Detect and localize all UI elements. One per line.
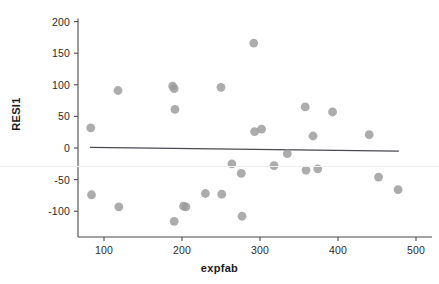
data-point bbox=[301, 103, 310, 112]
reference-line bbox=[90, 147, 399, 151]
data-point-group bbox=[86, 39, 402, 226]
x-axis-tick-label: 300 bbox=[251, 244, 269, 256]
data-point bbox=[182, 202, 191, 211]
data-point bbox=[328, 108, 337, 117]
y-axis-tick-label: 50 bbox=[30, 110, 70, 122]
data-point bbox=[87, 190, 96, 199]
y-axis-tick-label: 150 bbox=[30, 47, 70, 59]
data-point bbox=[170, 84, 179, 93]
data-point bbox=[170, 217, 179, 226]
data-point bbox=[237, 169, 246, 178]
x-axis-tick-label: 500 bbox=[407, 244, 425, 256]
y-axis-tick-label: 0 bbox=[30, 142, 70, 154]
x-axis-tick-label: 200 bbox=[173, 244, 191, 256]
data-point bbox=[217, 83, 226, 92]
data-point bbox=[114, 202, 123, 211]
x-axis-tick-label: 400 bbox=[329, 244, 347, 256]
x-axis-tick-label: 100 bbox=[95, 244, 113, 256]
data-point bbox=[302, 166, 311, 175]
y-axis-tick-label: 100 bbox=[30, 79, 70, 91]
data-point bbox=[114, 86, 123, 95]
data-point bbox=[374, 173, 383, 182]
y-axis-title-wrap: RESI1 bbox=[6, 0, 26, 284]
data-point bbox=[171, 105, 180, 114]
data-point bbox=[394, 185, 403, 194]
scan-artifact-line bbox=[0, 166, 439, 167]
data-point bbox=[86, 123, 95, 132]
data-point bbox=[365, 130, 374, 139]
data-point bbox=[309, 132, 318, 141]
data-point bbox=[217, 190, 226, 199]
y-axis-tick-label: -50 bbox=[30, 174, 70, 186]
data-point bbox=[257, 125, 266, 134]
data-point bbox=[283, 149, 292, 158]
y-axis-tick-label: 200 bbox=[30, 16, 70, 28]
data-point bbox=[201, 189, 210, 198]
y-axis-tick-label: -100 bbox=[30, 205, 70, 217]
y-axis-title: RESI1 bbox=[10, 88, 22, 140]
data-point bbox=[238, 212, 247, 221]
x-axis-title: expfab bbox=[0, 262, 439, 274]
data-point bbox=[249, 39, 258, 48]
scatter-plot-figure: 200150100500-50-100 100200300400500 expf… bbox=[0, 0, 439, 284]
